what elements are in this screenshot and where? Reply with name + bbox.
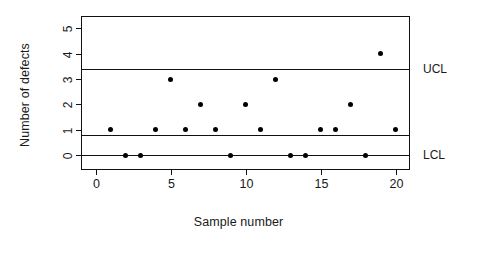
data-point (258, 127, 263, 132)
control-limit-line-cl (82, 135, 409, 136)
data-point (318, 127, 323, 132)
data-point (273, 77, 278, 82)
data-point (198, 102, 203, 107)
control-chart-figure: Number of defects 01234505101520UCLLCL S… (0, 0, 477, 256)
x-axis-tick-label: 20 (390, 178, 404, 191)
data-point (348, 102, 353, 107)
y-axis-tick: 4 (76, 54, 82, 55)
y-axis-tick: 3 (76, 79, 82, 80)
control-limit-line-ucl (82, 69, 409, 70)
data-point (123, 153, 128, 158)
x-axis-tick: 15 (321, 169, 322, 175)
data-point (213, 127, 218, 132)
data-point (333, 127, 338, 132)
x-axis-tick: 10 (246, 169, 247, 175)
y-axis-tick-label: 0 (63, 153, 75, 160)
x-axis-tick-label: 15 (315, 178, 329, 191)
data-point (153, 127, 158, 132)
x-axis-tick-label: 0 (93, 178, 100, 191)
x-axis-tick: 5 (171, 169, 172, 175)
y-axis-tick: 1 (76, 130, 82, 131)
y-axis-tick: 5 (76, 28, 82, 29)
data-point (363, 153, 368, 158)
data-point (288, 153, 293, 158)
y-axis-tick-label: 4 (63, 51, 75, 58)
data-point (243, 102, 248, 107)
data-point (108, 127, 113, 132)
control-limit-label-ucl: UCL (423, 63, 447, 75)
data-point (378, 51, 383, 56)
data-point (168, 77, 173, 82)
y-axis-title: Number of defects (10, 0, 40, 190)
x-axis-tick: 0 (96, 169, 97, 175)
data-point (138, 153, 143, 158)
y-axis-title-text: Number of defects (18, 43, 32, 147)
data-point (228, 153, 233, 158)
y-axis-tick: 2 (76, 104, 82, 105)
control-limit-line-lcl (82, 155, 409, 156)
data-point (393, 127, 398, 132)
plot-area: 01234505101520UCLLCL (81, 16, 410, 170)
y-axis-tick-label: 1 (63, 127, 75, 134)
x-axis-title: Sample number (0, 215, 477, 229)
x-axis-tick-label: 5 (168, 178, 175, 191)
y-axis-tick-label: 2 (63, 102, 75, 109)
data-point (303, 153, 308, 158)
x-axis-tick-label: 10 (240, 178, 254, 191)
x-axis-tick: 20 (396, 169, 397, 175)
y-axis-tick-label: 5 (63, 26, 75, 33)
control-limit-label-lcl: LCL (423, 149, 445, 161)
y-axis-tick-label: 3 (63, 77, 75, 84)
data-point (183, 127, 188, 132)
